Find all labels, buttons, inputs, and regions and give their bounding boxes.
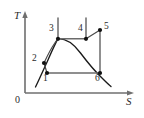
state-point-2-label: 2 [32,54,37,64]
dome-right-branch [58,39,111,87]
ts-diagram-figure: T S 0 1 2 3 4 5 6 [0,0,144,118]
y-axis-arrowhead [22,11,27,18]
state-point-6-label: 6 [95,74,100,84]
state-point-5-marker [98,28,102,32]
ts-diagram-canvas [0,0,144,118]
state-point-3-marker [56,37,60,41]
state-point-5-label: 5 [104,22,109,32]
state-point-3-label: 3 [49,24,54,34]
origin-label: 0 [15,95,20,105]
process-4-5-line [86,30,100,39]
state-point-4-marker [84,37,88,41]
state-point-2-marker [42,61,46,65]
y-axis-label: T [14,10,20,21]
state-point-4-label: 4 [78,24,83,34]
state-point-1-label: 1 [43,74,48,84]
x-axis-label: S [126,96,132,107]
